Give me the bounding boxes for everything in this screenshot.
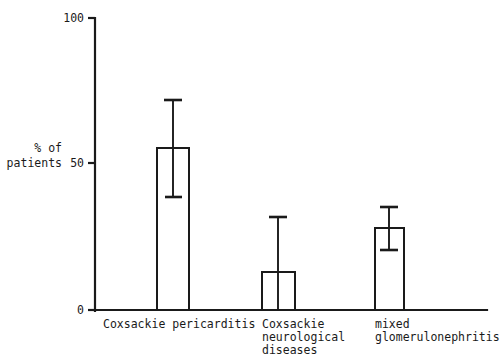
y-axis-title-line2: patients <box>7 156 62 170</box>
bar-group-mixed-glomerulonephritis <box>375 207 404 310</box>
bar-chart-svg: 100 50 0 % of patients Coxsackie pericar… <box>0 0 504 364</box>
chart-figure: 100 50 0 % of patients Coxsackie pericar… <box>0 0 504 364</box>
category-label-2-line1: Coxsackie <box>262 317 324 331</box>
bar-group-coxsackie-pericarditis <box>157 100 189 310</box>
category-label-3-line2: glomerulonephritis <box>375 330 500 344</box>
category-label-3-line1: mixed <box>375 317 410 331</box>
y-axis-title-line1: % of <box>34 141 62 155</box>
category-label-2-line3: diseases <box>262 343 317 357</box>
y-tick-label-0: 0 <box>77 303 84 317</box>
bar-group-coxsackie-neurological-diseases <box>262 217 295 310</box>
y-tick-label-100: 100 <box>63 11 84 25</box>
category-label-1-line1: Coxsackie pericarditis <box>103 317 255 331</box>
y-tick-label-50: 50 <box>70 156 84 170</box>
category-label-2-line2: neurological <box>262 330 345 344</box>
